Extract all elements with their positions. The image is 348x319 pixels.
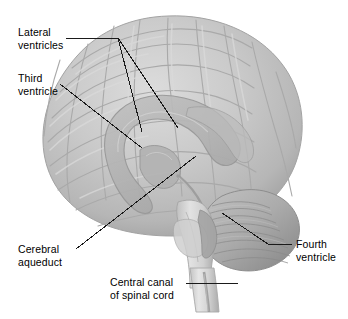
brain-ventricles-figure: Lateral ventricles Third ventricle Cereb… — [0, 0, 348, 319]
label-third-ventricle: Third ventricle — [18, 72, 58, 97]
label-fourth-ventricle: Fourth ventricle — [296, 238, 336, 263]
label-central-canal-of-spinal-cord: Central canal of spinal cord — [110, 276, 174, 301]
label-cerebral-aqueduct: Cerebral aqueduct — [18, 243, 62, 268]
label-lateral-ventricles: Lateral ventricles — [18, 26, 63, 51]
spinal-cord — [190, 268, 219, 312]
